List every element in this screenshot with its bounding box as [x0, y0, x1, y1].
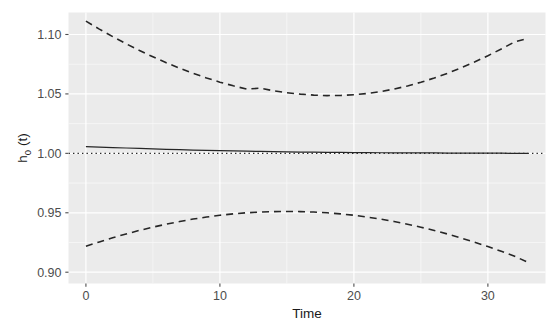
- x-tick-label: 10: [213, 289, 227, 303]
- y-tick-label: 1.00: [37, 147, 61, 161]
- y-axis-title-text: h0 (t): [15, 133, 33, 162]
- y-tick-label: 1.05: [37, 87, 61, 101]
- chart-figure: 0102030 0.900.951.001.051.10 Time h0 (t): [0, 0, 556, 326]
- x-tick-label: 20: [347, 289, 361, 303]
- x-tick-label: 30: [481, 289, 495, 303]
- y-tick-label: 0.95: [37, 206, 61, 220]
- x-tick-label: 0: [82, 289, 89, 303]
- plot-area: 0102030 0.900.951.001.051.10 Time h0 (t): [0, 0, 556, 326]
- y-tick-label: 1.10: [37, 28, 61, 42]
- y-axis-title: h0 (t): [15, 133, 33, 162]
- y-axis-title-rotated: h0 (t): [15, 133, 33, 162]
- x-axis-title: Time: [292, 306, 322, 321]
- y-tick-label: 0.90: [37, 266, 61, 280]
